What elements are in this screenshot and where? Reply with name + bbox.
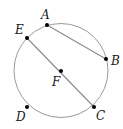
point-d (25, 105, 29, 109)
point-label-f: F (51, 75, 61, 89)
circle-diagram: ABCDEF (0, 0, 123, 129)
point-a (45, 23, 49, 27)
point-e (25, 36, 29, 40)
point-b (104, 57, 108, 61)
point-label-b: B (110, 54, 120, 68)
point-label-d: D (15, 110, 26, 124)
labels: ABCDEF (14, 8, 120, 124)
point-label-c: C (96, 109, 105, 123)
point-label-a: A (40, 8, 50, 22)
point-f (59, 69, 63, 73)
point-label-e: E (14, 23, 24, 37)
segment-ab (47, 25, 106, 59)
